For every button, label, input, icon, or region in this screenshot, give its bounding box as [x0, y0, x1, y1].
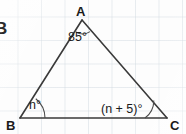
angle-label-c: (n + 5)° [101, 103, 142, 116]
clipped-edge-character: B [0, 20, 7, 37]
vertex-label-b: B [6, 119, 15, 132]
geometry-figure: A B C 85° n° (n + 5)° B [0, 0, 186, 134]
angle-label-b: n° [29, 99, 41, 112]
triangle-drawing [0, 0, 186, 134]
angle-arc-c [145, 100, 154, 118]
angle-label-a: 85° [68, 31, 87, 44]
vertex-label-a: A [76, 5, 85, 18]
vertex-label-c: C [170, 119, 179, 132]
